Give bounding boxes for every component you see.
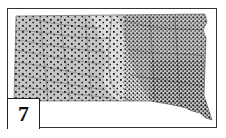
figure-label-box: 7 <box>7 98 40 129</box>
map-body <box>10 10 220 125</box>
figure-label: 7 <box>18 101 29 127</box>
